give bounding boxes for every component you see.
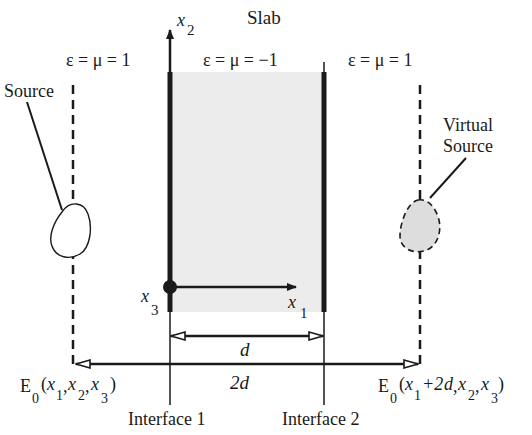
virtual-source-shape	[400, 200, 440, 252]
svg-text:,: ,	[453, 376, 458, 396]
right-region-label: ε = μ = 1	[348, 50, 413, 70]
svg-text:E: E	[20, 376, 31, 396]
x1-subscript: 1	[300, 305, 308, 321]
svg-text:E: E	[378, 376, 389, 396]
svg-text:2: 2	[468, 388, 475, 403]
svg-text:,: ,	[85, 376, 90, 396]
left-region-label: ε = μ = 1	[66, 50, 131, 70]
x2-subscript: 2	[187, 22, 195, 38]
svg-text:0: 0	[390, 391, 397, 406]
2d-label: 2d	[230, 372, 250, 393]
origin-dot	[163, 280, 177, 294]
virtual-source-pointer	[430, 158, 466, 198]
svg-text:x: x	[90, 374, 99, 394]
svg-text:,: ,	[63, 376, 68, 396]
right-field-label: E 0 ( x 1 +2 d , x 2 , x 3 )	[378, 374, 504, 406]
svg-text:+2: +2	[422, 374, 443, 394]
svg-text:3: 3	[101, 391, 108, 406]
x2-label: x	[176, 10, 185, 30]
svg-text:1: 1	[56, 388, 63, 403]
svg-text:x: x	[67, 374, 76, 394]
svg-text:0: 0	[32, 391, 39, 406]
svg-text:x: x	[46, 374, 55, 394]
svg-text:x: x	[457, 374, 466, 394]
virtual-source-label-line2: Source	[443, 136, 493, 156]
slab-title: Slab	[247, 7, 281, 28]
d-label: d	[240, 339, 250, 360]
x3-label: x	[140, 286, 149, 306]
source-shape	[51, 204, 91, 257]
interface-1-label: Interface 1	[128, 409, 205, 429]
svg-text:): )	[498, 374, 504, 395]
svg-text:2: 2	[78, 388, 85, 403]
slab-region	[170, 72, 324, 312]
interface-2-label: Interface 2	[282, 409, 359, 429]
source-label: Source	[4, 81, 54, 101]
slab-diagram: Slab ε = μ = 1 ε = μ = −1 ε = μ = 1 x 2 …	[0, 0, 532, 435]
svg-text:3: 3	[491, 391, 498, 406]
svg-text:x: x	[480, 374, 489, 394]
slab-region-label: ε = μ = −1	[203, 50, 278, 70]
svg-text:): )	[110, 374, 116, 395]
x1-label: x	[287, 292, 296, 312]
left-field-label: E 0 ( x 1 , x 2 , x 3 )	[20, 374, 116, 406]
svg-text:,: ,	[475, 376, 480, 396]
svg-text:x: x	[404, 374, 413, 394]
svg-text:1: 1	[414, 388, 421, 403]
virtual-source-label-line1: Virtual	[443, 115, 493, 135]
x3-subscript: 3	[151, 302, 159, 318]
source-pointer	[27, 102, 62, 210]
